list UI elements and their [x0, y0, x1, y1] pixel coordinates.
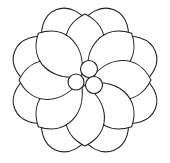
flower-illustration-canvas	[0, 0, 170, 163]
right-circle	[86, 77, 103, 94]
left-circle	[68, 74, 84, 90]
flower-line-drawing	[0, 0, 170, 163]
top-circle	[81, 61, 98, 78]
